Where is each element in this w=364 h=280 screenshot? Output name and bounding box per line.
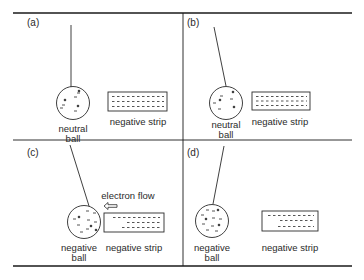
panel-d-drawing [196, 146, 319, 238]
panel-a-drawing [57, 25, 168, 120]
panel-d-ball-label-line2: ball [190, 253, 234, 263]
string [70, 145, 89, 206]
negative-strip [262, 211, 318, 231]
electron-flow-label: electron flow [98, 191, 158, 201]
ball-charges [201, 209, 222, 231]
panel-c-strip-label: negative strip [100, 243, 168, 253]
strip-charges [112, 97, 164, 107]
negative-ball [196, 205, 229, 238]
panel-c-ball-label-line2: ball [57, 253, 101, 263]
panel-b-strip-label: negative strip [246, 117, 314, 127]
panel-c-tag: (c) [27, 147, 39, 158]
panel-a-strip-label: negative strip [104, 117, 172, 127]
panel-b-drawing [210, 27, 311, 120]
panel-b-ball-label-line2: ball [206, 130, 246, 140]
panel-a-tag: (a) [27, 17, 39, 28]
neutral-ball [57, 87, 90, 120]
panel-b-tag: (b) [187, 17, 199, 28]
panel-d-tag: (d) [187, 147, 199, 158]
string [214, 27, 226, 86]
string [213, 146, 224, 204]
ball-charges [73, 211, 97, 232]
ball-charges [213, 91, 235, 109]
ball-charges [60, 90, 80, 111]
strip-charges [113, 218, 160, 228]
electrostatics-figure: (a) neutral ball negative strip (b) neut… [0, 0, 364, 280]
strip-charges [256, 97, 307, 106]
panel-d-strip-label: negative strip [256, 243, 324, 253]
strip-charges [268, 216, 314, 227]
electron-flow-arrow-icon [104, 203, 117, 210]
panel-a-ball-label-line2: ball [53, 134, 93, 144]
